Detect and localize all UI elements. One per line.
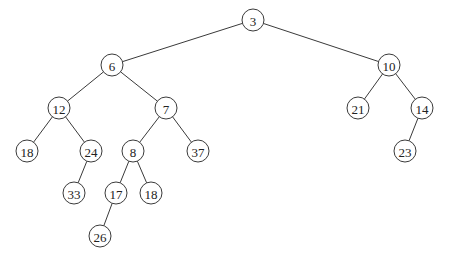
tree-edge	[66, 117, 85, 142]
tree-edge	[396, 74, 416, 100]
node-label: 6	[109, 59, 116, 74]
tree-edge	[104, 203, 112, 225]
tree-edge	[263, 23, 378, 61]
tree-node: 33	[63, 182, 85, 204]
node-label: 3	[250, 14, 257, 29]
tree-diagram: 3610127211418248372333171826	[0, 0, 449, 264]
node-label: 8	[130, 145, 137, 160]
node-label: 24	[85, 145, 99, 160]
tree-node: 6	[101, 54, 123, 76]
node-label: 23	[399, 145, 412, 160]
tree-node: 26	[89, 225, 111, 247]
node-label: 21	[352, 102, 365, 117]
tree-edge	[68, 72, 104, 101]
node-label: 18	[21, 145, 34, 160]
node-label: 18	[145, 187, 158, 202]
node-label: 12	[53, 102, 66, 117]
tree-edge	[173, 117, 192, 142]
tree-node: 24	[80, 140, 102, 162]
tree-node: 18	[140, 182, 162, 204]
tree-node: 10	[378, 54, 400, 76]
node-label: 10	[383, 59, 396, 74]
node-label: 17	[110, 187, 124, 202]
tree-node: 14	[411, 97, 433, 119]
node-label: 33	[68, 187, 81, 202]
tree-node: 23	[394, 140, 416, 162]
tree-edge	[140, 117, 160, 143]
edges-layer	[34, 23, 418, 225]
nodes-layer: 3610127211418248372333171826	[16, 9, 433, 247]
node-label: 37	[192, 145, 206, 160]
tree-edge	[122, 23, 242, 61]
tree-node: 18	[16, 140, 38, 162]
tree-node: 17	[105, 182, 127, 204]
node-label: 14	[416, 102, 430, 117]
tree-edge	[137, 161, 146, 183]
tree-node: 37	[187, 140, 209, 162]
tree-edge	[34, 117, 53, 142]
tree-node: 7	[155, 97, 177, 119]
tree-edge	[409, 118, 418, 141]
node-label: 7	[163, 102, 170, 117]
tree-edge	[78, 161, 87, 183]
tree-node: 21	[347, 97, 369, 119]
tree-edge	[121, 72, 158, 101]
tree-node: 12	[48, 97, 70, 119]
tree-edge	[120, 161, 129, 183]
node-label: 26	[94, 230, 108, 245]
tree-node: 8	[122, 140, 144, 162]
tree-node: 3	[242, 9, 264, 31]
tree-edge	[364, 74, 382, 99]
